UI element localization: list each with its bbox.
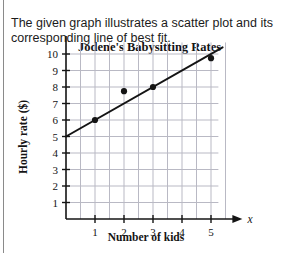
scatter-point [92, 117, 98, 123]
best-fit-line-segment [66, 47, 223, 136]
scatter-point [121, 88, 127, 94]
screenshot-root: The given graph illustrates a scatter pl… [0, 0, 282, 253]
grid-minor-vertical-lines [81, 42, 226, 219]
y-axis-tick-label: 6 [53, 114, 59, 126]
y-axis-tick-label: 3 [53, 164, 59, 176]
y-axis-tick-label: 10 [47, 48, 59, 60]
axis-lines: yx [59, 36, 253, 225]
x-axis-tick-label: 3 [150, 226, 156, 238]
x-axis-arrowhead [232, 215, 242, 223]
grid-horizontal-lines [66, 54, 218, 203]
x-axis-tick-label: 2 [121, 226, 127, 238]
x-axis-tick-label: 1 [92, 226, 98, 238]
line-of-best-fit [66, 47, 223, 136]
scatter-point [208, 55, 214, 61]
y-axis-tick-label: 2 [53, 180, 59, 192]
scatter-plot-figure: Jodene's Babysitting Rates Hourly rate (… [0, 36, 282, 253]
y-axis-tick-label: 9 [53, 65, 59, 77]
x-axis-variable-label: x [246, 213, 253, 225]
plot-canvas: 12345678910 12345 yx [0, 36, 282, 253]
x-axis-tick-label: 4 [179, 226, 185, 238]
x-axis-tick-label: 5 [208, 226, 214, 238]
scatter-point [150, 84, 156, 90]
y-axis-tick-label: 7 [53, 98, 59, 110]
y-axis-tick-label: 1 [53, 197, 59, 209]
y-axis-tick-label: 4 [53, 147, 59, 159]
y-axis-tick-label: 5 [53, 131, 59, 143]
y-axis-tick-label: 8 [53, 81, 59, 93]
